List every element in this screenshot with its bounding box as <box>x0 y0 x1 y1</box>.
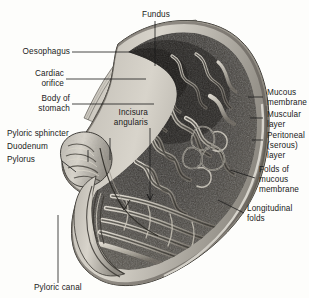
label-folds-of-mucous-membrane: Folds of mucous membrane <box>259 165 309 196</box>
label-duodenum: Duodenum <box>7 142 97 152</box>
label-body-of-stomach: Body of stomach <box>0 94 70 114</box>
label-incisura-angularis: Incisura angularis <box>78 108 148 128</box>
label-peritoneal-layer: Peritoneal (serous) layer <box>267 131 309 162</box>
label-fundus: Fundus <box>128 10 184 20</box>
label-longitudinal-folds: Longitudinal folds <box>247 204 309 224</box>
label-oesophagus: Oesophagus <box>0 47 70 57</box>
label-mucous-membrane: Mucous membrane <box>267 88 309 108</box>
label-pyloric-sphincter: Pyloric sphincter <box>7 129 117 139</box>
label-pylorus: Pylorus <box>7 155 87 165</box>
label-pyloric-canal: Pyloric canal <box>34 283 124 293</box>
label-muscular-layer: Muscular layer <box>267 110 309 130</box>
label-cardiac-orifice: Cardiac orifice <box>0 69 64 89</box>
